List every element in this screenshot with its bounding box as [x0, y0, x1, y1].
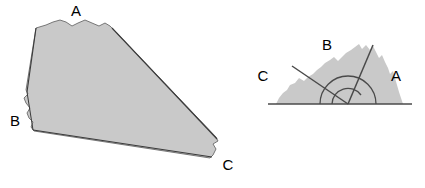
label-vertex-a-left: A [71, 2, 81, 19]
label-region-b-right: B [322, 36, 332, 53]
left-polygon-figure: A B C [10, 2, 234, 173]
label-region-c-right: C [258, 67, 269, 84]
right-angle-figure: B C A [258, 36, 412, 104]
geometry-diagram-svg: A B C B C A [0, 0, 425, 188]
label-vertex-b-left: B [10, 112, 20, 129]
figure-canvas: A B C B C A [0, 0, 425, 188]
shaded-mound-shape [276, 44, 403, 104]
label-vertex-c-left: C [223, 156, 234, 173]
label-region-a-right: A [391, 67, 401, 84]
shaded-quadrilateral-shape [24, 20, 218, 158]
